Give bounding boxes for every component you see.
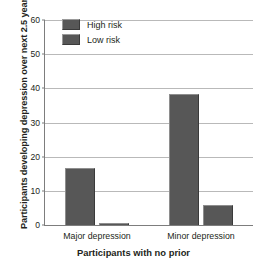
legend-item-high-risk: High risk <box>62 17 122 32</box>
bar-high-risk-major-depression <box>65 168 95 225</box>
bar-low-risk-minor-depression <box>203 205 233 225</box>
y-tick-label: 10 <box>30 186 40 196</box>
legend-swatch-low-risk <box>62 34 80 45</box>
legend-label-low-risk: Low risk <box>87 35 120 45</box>
y-tick-label: 30 <box>30 118 40 128</box>
gridline <box>45 54 253 55</box>
y-tick-label: 40 <box>30 83 40 93</box>
y-tick-label: 0 <box>35 220 40 230</box>
x-tick-label: Major depression <box>63 231 130 241</box>
y-tick-mark <box>42 156 45 157</box>
y-tick-label: 20 <box>30 152 40 162</box>
gridline <box>45 157 253 158</box>
legend-label-high-risk: High risk <box>87 20 122 30</box>
y-tick-label: 50 <box>30 49 40 59</box>
y-tick-mark <box>42 20 45 21</box>
gridline <box>45 88 253 89</box>
chart-legend: High risk Low risk <box>59 15 128 50</box>
legend-item-low-risk: Low risk <box>62 32 122 47</box>
x-tick-label: Minor depression <box>167 231 234 241</box>
bar-chart-figure: Participants developing depression over … <box>0 0 267 264</box>
legend-swatch-high-risk <box>62 19 80 30</box>
gridline <box>45 123 253 124</box>
bar-low-risk-major-depression <box>99 223 129 225</box>
y-tick-mark <box>42 225 45 226</box>
y-axis-title: Participants developing depression over … <box>19 9 29 229</box>
x-axis-title: Participants with no prior <box>0 247 267 258</box>
y-tick-mark <box>42 190 45 191</box>
bar-high-risk-minor-depression <box>169 94 199 225</box>
y-tick-mark <box>42 54 45 55</box>
y-tick-label: 60 <box>30 15 40 25</box>
y-tick-mark <box>42 88 45 89</box>
plot-area: 0102030405060Major depressionMinor depre… <box>44 20 253 226</box>
y-tick-mark <box>42 122 45 123</box>
